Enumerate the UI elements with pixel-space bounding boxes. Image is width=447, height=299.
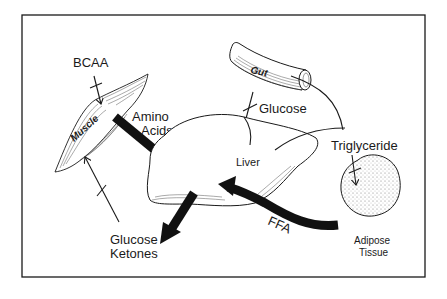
bcaa-label: BCAA — [73, 55, 109, 70]
glucose-from-gut-label: Glucose — [259, 101, 307, 116]
ketones-to-muscle-arrow — [85, 157, 119, 222]
gut-shape — [230, 43, 311, 91]
diagram-canvas: Muscle BCAA Amino Acids Gut Glucose — [0, 0, 447, 299]
triglyceride-label: Triglyceride — [331, 138, 398, 153]
amino-acids-label-line1: Amino — [132, 109, 169, 124]
glucose-ketones-label-line2: Ketones — [110, 246, 158, 261]
liver-label: Liver — [236, 156, 260, 168]
glucose-ketones-label-line1: Glucose — [110, 232, 158, 247]
adipose-label-line1: Adipose — [354, 235, 391, 246]
gut-label: Gut — [250, 64, 270, 78]
adipose-label-line2: Tissue — [359, 247, 389, 258]
adipose-shape — [341, 155, 400, 216]
